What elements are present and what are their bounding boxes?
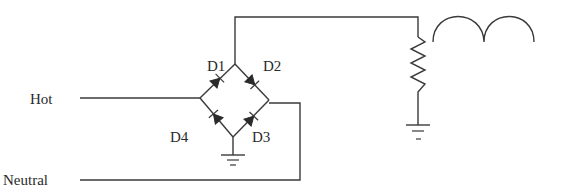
bridge-rectifier-diagram: Hot Neutral D1 <box>0 0 562 196</box>
neutral-input: Neutral <box>3 103 300 188</box>
neutral-label: Neutral <box>3 172 48 188</box>
d3-label: D3 <box>252 129 270 145</box>
d2-label: D2 <box>263 58 281 74</box>
d4-label: D4 <box>170 129 189 145</box>
output-wire <box>235 17 418 64</box>
resistor-icon <box>411 37 425 125</box>
d1-label: D1 <box>207 58 225 74</box>
rectified-waveform-icon <box>433 17 534 43</box>
hot-label: Hot <box>30 91 53 107</box>
hot-input: Hot <box>30 91 200 107</box>
diode-bridge: D1 D2 D3 D4 <box>170 58 281 165</box>
load-ground-icon <box>406 125 430 139</box>
bridge-ground-icon <box>221 137 245 165</box>
